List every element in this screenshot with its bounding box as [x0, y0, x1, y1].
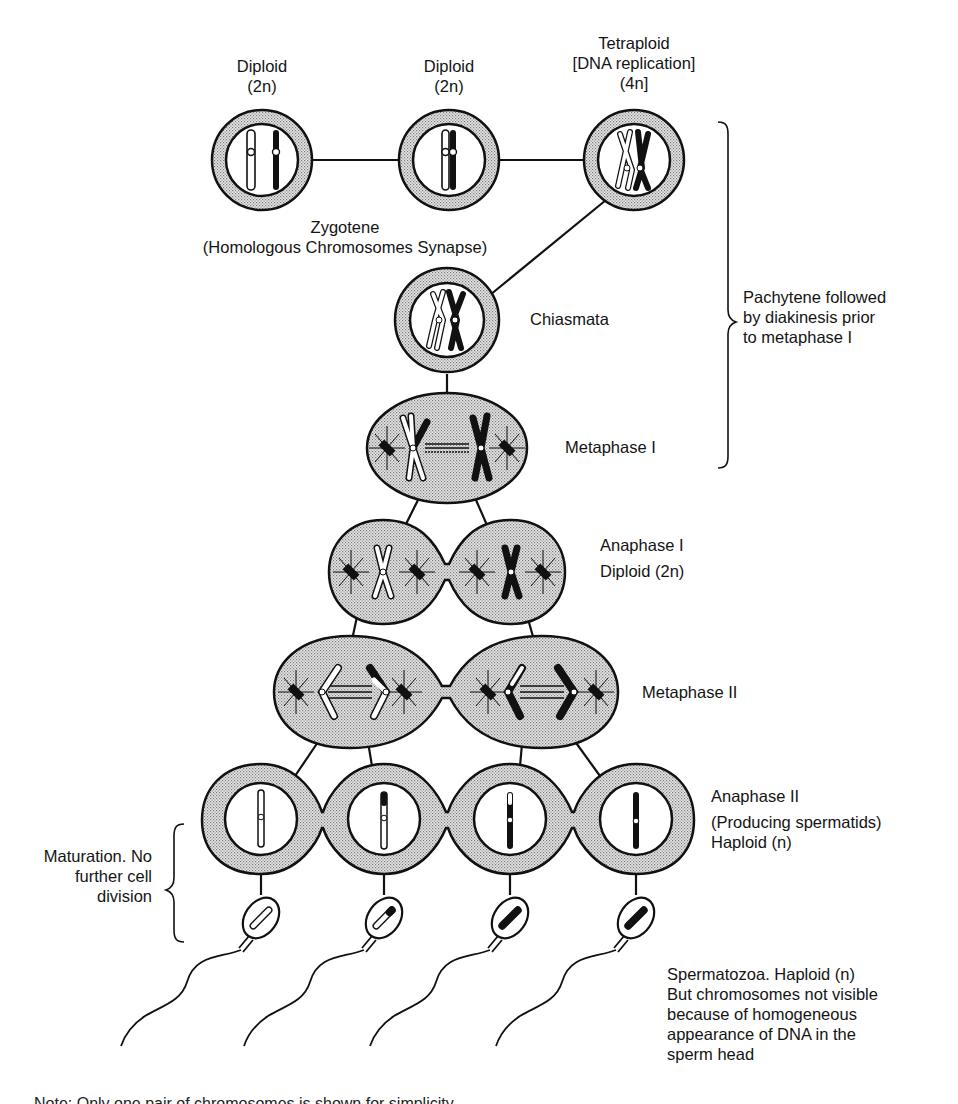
cell-diploid-1 [212, 110, 312, 210]
label-tetraploid: Tetraploid [DNA replication] (4n] [564, 33, 704, 93]
label-chiasmata: Chiasmata [530, 309, 609, 329]
cell-tetraploid [584, 110, 684, 210]
label-anaphase-2: Anaphase II (Producing spermatids) Haplo… [711, 786, 882, 852]
label-diploid-2: Diploid (2n) [399, 56, 499, 96]
spermatozoa [121, 891, 662, 1046]
label-metaphase-2: Metaphase II [642, 682, 737, 702]
label-pachytene: Pachytene followed by diakinesis prior t… [743, 287, 886, 347]
meiosis-diagram [0, 0, 958, 1104]
cell-chiasmata [395, 268, 499, 372]
cell-anaphase-1 [329, 520, 565, 624]
cell-anaphase-2-chain [202, 764, 694, 874]
label-maturation: Maturation. No further cell division [10, 846, 152, 906]
cell-diploid-2 [399, 110, 499, 210]
cell-metaphase-2 [274, 636, 618, 748]
maturation-bracket [166, 824, 184, 942]
label-zygotene: Zygotene (Homologous Chromosomes Synapse… [180, 217, 510, 257]
cell-metaphase-1 [367, 393, 527, 503]
footnote-clipped: Note: Only one pair of chromosomes is sh… [34, 1093, 454, 1104]
label-spermatozoa: Spermatozoa. Haploid (n) But chromosomes… [667, 964, 878, 1064]
label-diploid-1: Diploid (2n) [212, 56, 312, 96]
pachytene-bracket [718, 122, 736, 468]
label-metaphase-1: Metaphase I [565, 437, 656, 457]
label-anaphase-1: Anaphase I Diploid (2n) [600, 532, 684, 584]
